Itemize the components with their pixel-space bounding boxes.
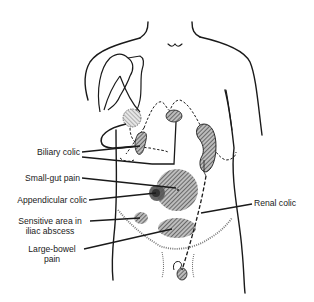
left-torso	[112, 130, 116, 280]
label-large-bowel-line1: Large-bowel	[22, 244, 82, 254]
large-bowel-area	[158, 218, 196, 238]
pointer-large-bowel	[84, 229, 172, 249]
label-sensitive-area-line2: iliac abscess	[10, 226, 90, 236]
label-small-gut-pain: Small-gut pain	[4, 173, 80, 183]
kidney	[197, 124, 216, 172]
label-appendicular-colic: Appendicular colic	[0, 195, 87, 205]
gallbladder	[135, 132, 147, 154]
pointer-appendicular	[89, 193, 156, 200]
biliary-loop	[101, 124, 138, 148]
shoulder-joint	[98, 54, 143, 112]
body-outline	[85, 22, 262, 293]
neck-right	[192, 22, 200, 37]
left-shoulder	[85, 38, 140, 100]
label-renal-colic: Renal colic	[254, 198, 296, 208]
pointer-biliary-3	[152, 122, 176, 164]
label-biliary-colic: Biliary colic	[4, 147, 80, 157]
right-torso	[225, 90, 245, 293]
stomach-area	[166, 110, 182, 122]
pointer-renal	[201, 204, 252, 213]
label-sensitive-area-line1: Sensitive area in	[10, 216, 90, 226]
neck-left	[140, 22, 148, 38]
pointer-biliary-1	[82, 146, 140, 152]
label-large-bowel-line2: pain	[22, 254, 82, 264]
